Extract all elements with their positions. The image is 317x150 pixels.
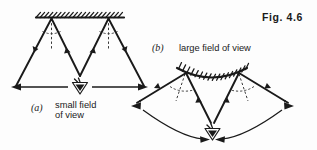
- ray-a-left-reflected: [52, 19, 81, 77]
- ray-b-left-extension: [131, 101, 141, 109]
- ray-b-right-reflected: [214, 73, 239, 123]
- normal-b-right: [231, 74, 255, 101]
- panel-b-caption-line1: large field of view: [179, 43, 251, 53]
- ray-a-right-incoming: [109, 19, 145, 87]
- panel-a-caption-line1: small field: [55, 100, 96, 110]
- ray-a-left-incoming: [16, 19, 52, 87]
- figure-number-label: Fig. 4.6: [262, 11, 303, 23]
- panel-a-diagram: (a) small field of view: [11, 12, 148, 120]
- panel-a-caption-line2: of view: [55, 110, 84, 120]
- figure-container: (a) small field of view: [0, 0, 317, 150]
- figure-drawing: (a) small field of view: [0, 0, 317, 150]
- ray-b-left-reflected: [186, 73, 211, 123]
- normal-a-left: [43, 19, 61, 51]
- panel-b-letter: (b): [152, 42, 164, 54]
- eye-symbol-b: [205, 124, 220, 140]
- panel-a-letter: (a): [31, 102, 43, 114]
- panel-b-diagram: (b) large field of view: [131, 42, 294, 143]
- ray-a-right-reflected: [80, 19, 109, 77]
- ray-b-right-incoming: [239, 73, 285, 101]
- normal-a-right: [100, 19, 118, 51]
- ray-b-right-extension: [284, 101, 294, 109]
- eye-symbol-a: [73, 78, 88, 94]
- normal-b-left: [170, 74, 194, 101]
- plane-mirror-surface: [36, 12, 124, 17]
